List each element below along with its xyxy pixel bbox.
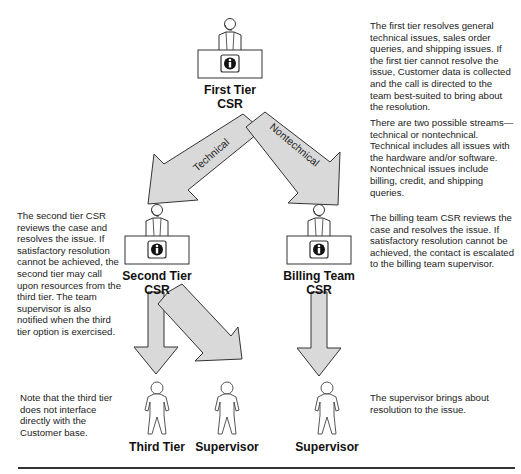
supervisor-right-person-icon [315,382,339,434]
first-tier-csr-icon [198,19,262,79]
supervisor-left-label: Supervisor [182,440,272,454]
billing-team-csr-icon [287,205,351,265]
streams-note: There are two possible streams—technical… [370,117,516,198]
billing-team-csr-label: Billing Team CSR [269,269,369,297]
first-tier-label-line1: First Tier [180,83,280,97]
second-tier-label-line2: CSR [107,283,207,297]
first-tier-csr-label: First Tier CSR [180,83,280,111]
supervisor-note: The supervisor brings about resolution t… [370,392,516,415]
third-tier-note: Note that the third tier does not interf… [20,392,124,438]
third-tier-person-icon [145,382,169,434]
nontechnical-arrow: Nontechnical [246,112,340,205]
bottom-divider [18,467,515,469]
supervisor-left-person-icon [215,382,239,434]
billing-team-label-line1: Billing Team [269,269,369,283]
supervisor-right-label: Supervisor [282,440,372,454]
billing-team-note: The billing team CSR reviews the case an… [370,212,516,270]
second-tier-csr-label: Second Tier CSR [107,269,207,297]
second-tier-note: The second tier CSR reviews the case and… [17,210,121,338]
billing-supervisor-arrow [297,292,341,376]
second-tier-csr-icon [125,205,189,265]
first-tier-label-line2: CSR [180,97,280,111]
technical-arrow: Technical [148,114,262,204]
billing-team-label-line2: CSR [269,283,369,297]
first-tier-note: The first tier resolves general technica… [370,20,516,113]
second-tier-label-line1: Second Tier [107,269,207,283]
